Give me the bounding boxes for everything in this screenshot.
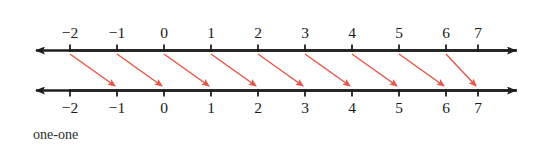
- domain-tick-label: 4: [348, 24, 356, 41]
- codomain-tick-label: 0: [160, 99, 168, 116]
- codomain-tick-labels: −2 −1 0 1 2 3 4 5 6 7: [62, 99, 482, 116]
- codomain-tick-label: −2: [62, 99, 79, 116]
- mapping-arrow: [258, 54, 303, 86]
- domain-number-line-group: −2 −1 0 1 2 3 4 5 6 7: [36, 24, 517, 52]
- domain-tick-label: 2: [254, 24, 262, 41]
- domain-tick-label: 0: [160, 24, 168, 41]
- codomain-tick-label: 5: [395, 99, 403, 116]
- codomain-tick-label: 7: [474, 99, 482, 116]
- mapping-arrow: [446, 54, 476, 86]
- one-one-mapping-figure: −2 −1 0 1 2 3 4 5 6 7: [0, 0, 535, 148]
- codomain-tick-label: 1: [207, 99, 215, 116]
- mapping-arrow: [399, 54, 444, 86]
- codomain-number-line-group: −2 −1 0 1 2 3 4 5 6 7: [36, 89, 517, 116]
- domain-tick-label: 7: [474, 24, 482, 41]
- domain-tick-label: 5: [395, 24, 403, 41]
- domain-tick-label: −2: [62, 24, 79, 41]
- mapping-arrow: [352, 54, 397, 86]
- mapping-arrow: [117, 54, 162, 86]
- figure-caption: one-one: [33, 127, 78, 142]
- codomain-tick-label: 4: [348, 99, 356, 116]
- domain-tick-label: 6: [442, 24, 450, 41]
- mapping-arrow: [211, 54, 256, 86]
- domain-tick-labels: −2 −1 0 1 2 3 4 5 6 7: [62, 24, 482, 41]
- number-line-diagram: −2 −1 0 1 2 3 4 5 6 7: [0, 0, 535, 148]
- codomain-tick-label: 2: [254, 99, 262, 116]
- mapping-arrow: [305, 54, 350, 86]
- domain-tick-label: 1: [207, 24, 215, 41]
- domain-tick-label: 3: [301, 24, 309, 41]
- codomain-tick-label: 3: [301, 99, 309, 116]
- mapping-arrow: [164, 54, 209, 86]
- domain-tick-label: −1: [109, 24, 126, 41]
- codomain-tick-label: 6: [442, 99, 450, 116]
- codomain-tick-label: −1: [109, 99, 126, 116]
- mapping-arrows-group: [70, 54, 476, 86]
- mapping-arrow: [70, 54, 115, 86]
